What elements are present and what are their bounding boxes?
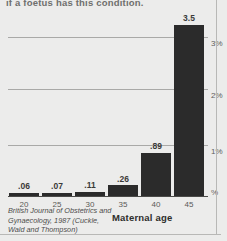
bar-40	[141, 153, 171, 196]
xaxis-title: Maternal age	[112, 212, 172, 223]
bar-30	[75, 192, 105, 196]
bar-value-30: .11	[73, 180, 107, 190]
figure-border-right	[216, 0, 217, 234]
bar-20	[9, 193, 39, 196]
bar-slot-20: .06	[8, 8, 40, 196]
bar-value-45: 3.5	[172, 13, 206, 23]
xtick-label-40: 40	[139, 200, 173, 209]
xtick-label-45: 45	[172, 200, 206, 209]
bar-slot-30: .11	[74, 8, 106, 196]
figure-border-bottom	[0, 234, 221, 235]
yaxis-unit-label: %	[211, 188, 218, 197]
bar-value-25: .07	[40, 181, 74, 191]
chart-figure: if a foetus has this condition. 3% 2% 1%…	[0, 0, 227, 241]
bar-value-35: .26	[106, 174, 140, 184]
bar-value-40: .89	[139, 141, 173, 151]
plot-area: 3% 2% 1% % .06 .07 .11 .26 .89	[8, 8, 208, 198]
bar-35	[108, 185, 138, 196]
bar-series: .06 .07 .11 .26 .89 3.5	[8, 8, 208, 196]
axis-baseline	[8, 196, 208, 197]
bar-value-20: .06	[7, 181, 41, 191]
bar-slot-25: .07	[41, 8, 73, 196]
bar-slot-45: 3.5	[173, 8, 205, 196]
bar-slot-40: .89	[140, 8, 172, 196]
bar-45	[174, 25, 204, 196]
bar-25	[42, 193, 72, 196]
clipped-heading-text: if a foetus has this condition.	[6, 0, 196, 7]
source-citation: British Journal of Obstetrics and Gynaec…	[8, 206, 112, 235]
bar-slot-35: .26	[107, 8, 139, 196]
